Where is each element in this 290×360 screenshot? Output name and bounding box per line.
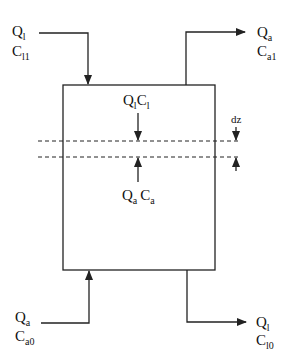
gas-outlet-label: Qa Ca1 (257, 24, 276, 62)
column-box (63, 85, 215, 270)
liquid-outlet-label: Ql Cl0 (256, 314, 274, 351)
liquid-inlet-arrow (39, 33, 88, 84)
dz-label: dz (231, 113, 242, 125)
column-diagram: Ql Cl1 Qa Ca1 Qa Ca0 Ql Cl0 QlCl QaCa dz (0, 0, 290, 360)
gas-outlet-arrow (186, 32, 245, 85)
liquid-inlet-label: Ql Cl1 (12, 23, 30, 62)
element-liquid-label: QlCl (123, 92, 150, 111)
gas-inlet-label: Qa Ca0 (15, 309, 34, 347)
gas-inlet-arrow (41, 271, 89, 323)
liquid-outlet-arrow (187, 270, 246, 322)
element-gas-label: QaCa (122, 187, 155, 206)
